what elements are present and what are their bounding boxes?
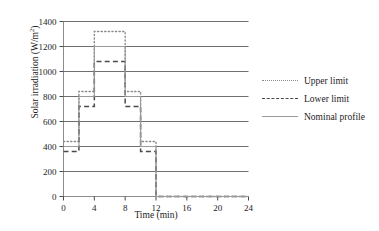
chart-figure: 020040060080010001200140004812162024 Sol… (0, 0, 379, 231)
legend-label-lower-limit: Lower limit (304, 94, 349, 104)
chart-legend: Upper limit Lower limit Nominal profile (262, 73, 379, 127)
y-tick-label-1400: 1400 (39, 17, 58, 27)
y-axis-label: Solar irradiation (W/m2) (28, 0, 40, 152)
y-axis-label-exponent: 2 (28, 29, 35, 32)
legend-item-nominal-profile: Nominal profile (262, 109, 379, 125)
legend-label-nominal-profile: Nominal profile (304, 112, 365, 122)
y-tick-label-400: 400 (43, 142, 57, 152)
y-axis-label-tail: ) (30, 26, 40, 29)
legend-swatch-dashed-icon (262, 94, 298, 104)
legend-swatch-solid-icon (262, 112, 298, 122)
legend-swatch-dotted-icon (262, 76, 298, 86)
y-tick-label-800: 800 (43, 92, 57, 102)
y-tick-label-1200: 1200 (39, 42, 58, 52)
y-tick-label-1000: 1000 (39, 67, 58, 77)
y-tick-label-200: 200 (43, 167, 57, 177)
legend-item-upper-limit: Upper limit (262, 73, 379, 89)
y-axis-label-text: Solar irradiation (W/m (30, 32, 40, 119)
legend-item-lower-limit: Lower limit (262, 91, 379, 107)
x-axis-label: Time (min) (63, 210, 249, 220)
y-tick-label-0: 0 (52, 192, 57, 202)
legend-label-upper-limit: Upper limit (304, 76, 348, 86)
y-tick-label-600: 600 (43, 117, 57, 127)
